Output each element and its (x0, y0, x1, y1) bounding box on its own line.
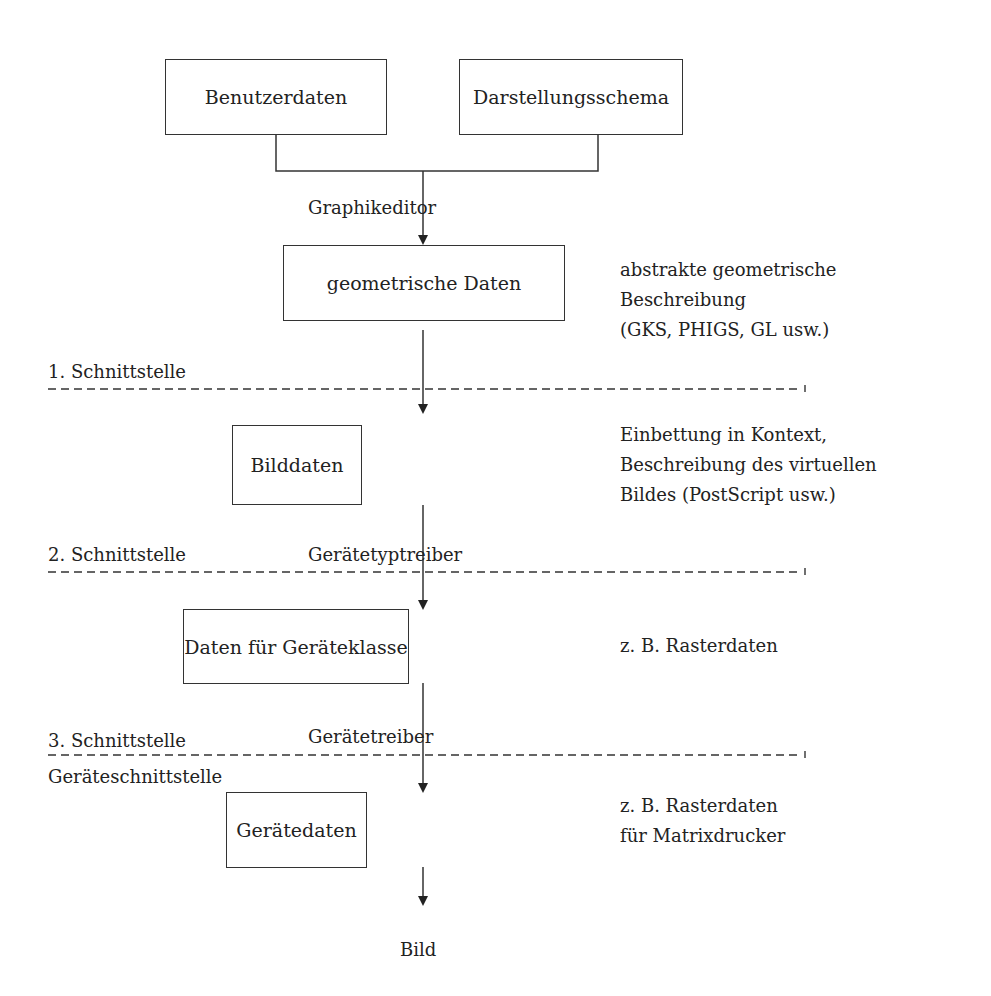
edge-label-graphics-editor: Graphikeditor (308, 196, 436, 220)
box-device-data: Gerätedaten (226, 792, 367, 868)
note-device-1: z. B. Rasterdaten (620, 794, 778, 818)
device-interface-label: Geräteschnittstelle (48, 765, 222, 789)
output-label: Bild (400, 938, 436, 962)
note-image-3: Bildes (PostScript usw.) (620, 483, 836, 507)
interface-label-3: 3. Schnittstelle (48, 729, 186, 753)
box-label: Darstellungsschema (473, 86, 669, 108)
note-geometric-3: (GKS, PHIGS, GL usw.) (620, 318, 829, 342)
interface-label-2: 2. Schnittstelle (48, 543, 186, 567)
edge-label-device-type-driver: Gerätetyptreiber (308, 543, 462, 567)
box-geometric-data: geometrische Daten (283, 245, 565, 321)
note-image-1: Einbettung in Kontext, (620, 423, 827, 447)
interface-label-1: 1. Schnittstelle (48, 360, 186, 384)
edge-label-device-driver: Gerätetreiber (308, 725, 433, 749)
note-image-2: Beschreibung des virtuellen (620, 453, 877, 477)
box-presentation-schema: Darstellungsschema (459, 59, 683, 135)
note-geometric-1: abstrakte geometrische (620, 258, 836, 282)
box-label: geometrische Daten (327, 272, 522, 294)
connector-lines (0, 0, 991, 996)
box-device-class-data: Daten für Geräteklasse (183, 609, 409, 684)
note-device-class: z. B. Rasterdaten (620, 634, 778, 658)
box-user-data: Benutzerdaten (165, 59, 387, 135)
box-label: Benutzerdaten (205, 86, 347, 108)
box-label: Gerätedaten (236, 819, 356, 841)
box-label: Daten für Geräteklasse (184, 636, 407, 658)
box-label: Bilddaten (251, 454, 344, 476)
box-image-data: Bilddaten (232, 425, 362, 505)
merge-connector (276, 135, 598, 171)
note-device-2: für Matrixdrucker (620, 824, 785, 848)
note-geometric-2: Beschreibung (620, 288, 746, 312)
